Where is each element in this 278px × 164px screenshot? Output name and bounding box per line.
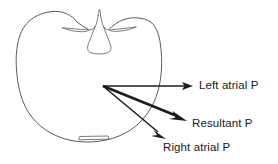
heart-right-shoulder-path	[110, 18, 151, 29]
septum-notch-spike	[98, 9, 100, 15]
septum-notch-left-wing	[63, 16, 99, 30]
heart-outline-path	[16, 11, 161, 142]
vector-right-atrial-shaft	[103, 86, 158, 132]
figure-container: Left atrial P Resultant P Right atrial P	[0, 0, 278, 164]
septum-inner-cavity	[88, 27, 111, 55]
apex-base-marker	[79, 136, 109, 140]
vector-resultant-shaft	[103, 86, 177, 116]
vector-label-left-atrial: Left atrial P	[199, 79, 258, 92]
heart-cross-section	[16, 9, 161, 142]
vector-resultant	[103, 86, 187, 121]
heart-left-shoulder-path	[78, 23, 89, 30]
vector-left-atrial	[103, 82, 193, 90]
vector-right-atrial-arrowhead	[151, 130, 166, 139]
vector-right-atrial	[103, 86, 166, 139]
vector-group	[103, 82, 193, 139]
vector-label-right-atrial: Right atrial P	[163, 141, 230, 154]
vector-label-resultant: Resultant P	[192, 117, 253, 130]
